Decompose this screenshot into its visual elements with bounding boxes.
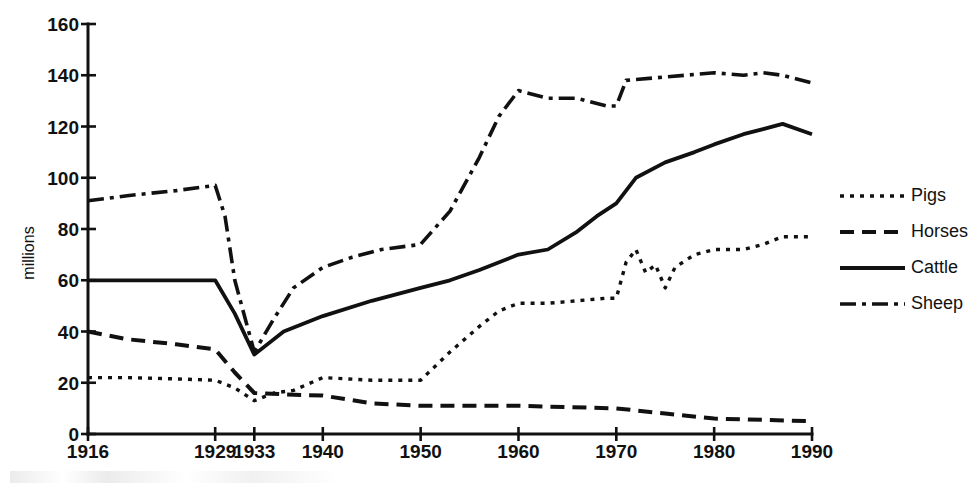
legend-label-sheep: Sheep (911, 293, 963, 313)
legend-item-cattle: Cattle (840, 257, 958, 277)
x-tick-label: 1960 (497, 441, 539, 462)
legend-item-horses: Horses (840, 221, 968, 241)
x-axis-tick-labels: 191619291933194019501960197019801990 (67, 441, 833, 462)
x-tick-label: 1970 (595, 441, 637, 462)
y-tick-label: 60 (58, 270, 79, 291)
x-tick-label: 1980 (693, 441, 735, 462)
legend-label-pigs: Pigs (911, 185, 946, 205)
x-tick-label: 1950 (400, 441, 442, 462)
chart-legend: PigsHorsesCattleSheep (840, 185, 968, 313)
x-tick-label: 1940 (302, 441, 344, 462)
series-paths (88, 73, 812, 422)
legend-label-cattle: Cattle (911, 257, 958, 277)
y-tick-label: 140 (47, 65, 79, 86)
y-tick-label: 120 (47, 117, 79, 138)
y-tick-label: 80 (58, 219, 79, 240)
legend-label-horses: Horses (911, 221, 968, 241)
y-tick-label: 40 (58, 322, 79, 343)
y-axis-tick-labels: 020406080100120140160 (47, 14, 79, 445)
y-axis-title: millions (20, 226, 37, 279)
y-tick-label: 20 (58, 373, 79, 394)
legend-item-pigs: Pigs (840, 185, 946, 205)
y-tick-label: 100 (47, 168, 79, 189)
series-line-horses (88, 332, 812, 422)
series-line-cattle (88, 124, 812, 355)
livestock-line-chart: 020406080100120140160 191619291933194019… (0, 0, 977, 487)
x-tick-label: 1990 (791, 441, 833, 462)
chart-figure: 020406080100120140160 191619291933194019… (0, 0, 977, 487)
y-tick-label: 160 (47, 14, 79, 35)
legend-item-sheep: Sheep (840, 293, 963, 313)
x-tick-label: 1929 (194, 441, 236, 462)
series-line-sheep (88, 73, 812, 352)
x-tick-label: 1933 (233, 441, 275, 462)
series-line-pigs (88, 237, 812, 401)
x-tick-label: 1916 (67, 441, 109, 462)
